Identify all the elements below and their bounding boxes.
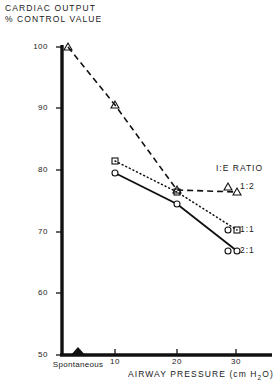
- legend-title: I:E RATIO: [216, 163, 263, 173]
- y-tick-label-80: 80: [24, 165, 48, 174]
- spontaneous-axis-label: Spontaneous: [43, 360, 113, 369]
- x-axis-title-units-prefix: (cm H: [229, 369, 257, 379]
- legend-item-label-2-1: 2:1: [240, 245, 255, 255]
- legend-circle-marker-2-1: [225, 248, 231, 254]
- x-tick-label-30: 30: [223, 357, 249, 366]
- x-axis-title: AIRWAY PRESSURE (cm H2O): [128, 369, 274, 381]
- x-axis-title-units-suffix: O): [262, 369, 274, 379]
- series-2-1-line: [115, 173, 237, 251]
- series-1-2-line: [68, 47, 237, 192]
- series-2-1-point-1: [174, 201, 180, 207]
- legend-triangle-marker: [224, 183, 232, 190]
- y-tick-label-70: 70: [24, 227, 48, 236]
- y-tick-label-60: 60: [24, 288, 48, 297]
- series-1-2: [64, 43, 241, 195]
- x-tick-label-20: 20: [164, 357, 190, 366]
- legend-circle-marker-1-1: [225, 227, 231, 233]
- series-2-1: [112, 170, 240, 254]
- y-tick-label-50: 50: [24, 350, 48, 359]
- legend-item-label-1-2: 1:2: [240, 181, 255, 191]
- legend-item-label-1-1: 1:1: [240, 224, 255, 234]
- spontaneous-marker: [70, 347, 86, 356]
- series-1-2-point-0: [64, 43, 72, 50]
- x-axis-title-main: AIRWAY PRESSURE: [128, 369, 226, 379]
- y-tick-label-100: 100: [24, 42, 48, 51]
- series-2-1-point-0: [112, 170, 118, 176]
- y-tick-label-90: 90: [24, 103, 48, 112]
